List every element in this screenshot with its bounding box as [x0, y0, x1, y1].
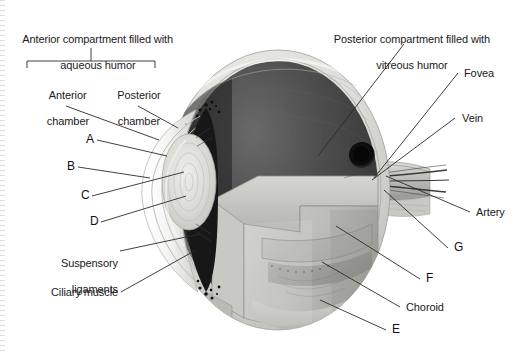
label-suspensory-ligaments: Suspensory ligaments	[40, 244, 118, 309]
posterior-compartment-line1: Posterior compartment filled with	[334, 33, 490, 45]
anterior-compartment-line1: Anterior compartment filled with	[22, 33, 173, 45]
anterior-compartment-line2: aqueous humor	[60, 59, 135, 71]
label-letter-b: B	[67, 160, 75, 173]
label-anterior-chamber: Anterior chamber	[31, 76, 93, 141]
label-letter-e: E	[392, 323, 400, 336]
label-letter-d: D	[90, 215, 99, 228]
label-ciliary-muscle: Ciliary muscle	[38, 286, 118, 299]
eye-anatomy-figure: Anterior compartment filled with aqueous…	[0, 0, 525, 353]
label-letter-f: F	[426, 272, 433, 285]
label-letter-g: G	[454, 241, 463, 254]
anterior-chamber-line1: Anterior	[49, 89, 87, 101]
posterior-chamber-line1: Posterior	[117, 89, 160, 101]
label-choroid: Choroid	[406, 301, 444, 314]
label-letter-c: C	[81, 189, 90, 202]
suspensory-ligaments-line1: Suspensory	[61, 257, 118, 269]
lens	[162, 134, 216, 230]
label-fovea: Fovea	[464, 67, 494, 80]
anterior-chamber-line2: chamber	[47, 115, 89, 127]
posterior-compartment-line2: vitreous humor	[376, 59, 447, 71]
label-artery: Artery	[476, 206, 505, 219]
label-letter-a: A	[86, 133, 94, 146]
posterior-chamber-line2: chamber	[118, 115, 160, 127]
label-vein: Vein	[462, 112, 483, 125]
label-posterior-chamber: Posterior chamber	[102, 76, 164, 141]
